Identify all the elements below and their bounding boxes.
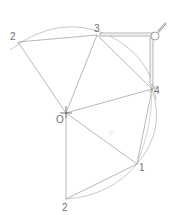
chord-2-3 xyxy=(18,35,97,42)
watermark: ≋ xyxy=(108,129,114,136)
label-point-3: 3 xyxy=(94,23,100,34)
label-point-2-bottom: 2 xyxy=(62,202,68,213)
compass-icon xyxy=(100,23,166,89)
chord-4-1 xyxy=(137,89,152,164)
chord-3-4 xyxy=(97,35,152,89)
radius-o-1 xyxy=(66,113,137,164)
label-point-2-top: 2 xyxy=(10,31,16,42)
label-center: O xyxy=(56,114,64,125)
circle-arc-top xyxy=(10,27,156,100)
chord-1-2 xyxy=(66,164,137,199)
radius-o-4 xyxy=(66,89,152,113)
label-point-1: 1 xyxy=(139,162,145,173)
construction-diagram: ≋ O 2 3 4 1 2 xyxy=(0,0,172,215)
label-point-4: 4 xyxy=(154,85,160,96)
radius-o-3 xyxy=(66,35,97,113)
radius-o-2top xyxy=(18,42,66,113)
circle-arc-right xyxy=(66,89,157,199)
